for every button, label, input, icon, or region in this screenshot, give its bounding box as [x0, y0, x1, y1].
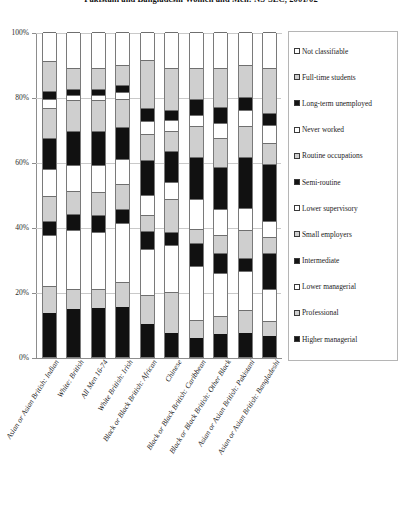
legend-item[interactable]: Professional	[294, 300, 393, 326]
bar-segment	[92, 131, 105, 165]
bar-segment	[141, 231, 154, 249]
bar-segment	[67, 309, 80, 357]
legend-item[interactable]: Small employers	[294, 221, 393, 247]
bar-segment	[43, 313, 56, 357]
legend-item[interactable]: Lower managerial	[294, 274, 393, 300]
legend-item[interactable]: Full-time students	[294, 64, 393, 90]
bar-segment	[43, 138, 56, 169]
bar-segment	[67, 68, 80, 89]
bar-segment	[263, 113, 276, 124]
plot-area	[36, 33, 281, 358]
bar-segment	[239, 157, 252, 207]
legend-item[interactable]: Not classifiable	[294, 38, 393, 64]
legend-label: Higher managerial	[302, 335, 357, 344]
bar-segment	[239, 333, 252, 357]
bar-segment	[214, 167, 227, 209]
bar-segment	[116, 209, 129, 224]
bar-segment	[67, 165, 80, 191]
bar-segment	[165, 333, 178, 357]
stacked-bar[interactable]	[115, 33, 130, 358]
bar-segment	[116, 32, 129, 65]
bar-segment	[263, 253, 276, 289]
bar-segment	[214, 316, 227, 334]
bar-segment	[141, 32, 154, 60]
bar-segment	[43, 221, 56, 236]
legend-swatch-icon	[294, 205, 300, 211]
stacked-bar[interactable]	[42, 33, 57, 358]
bar-segment	[214, 107, 227, 123]
bar-segment	[214, 138, 227, 167]
bar-segment	[141, 160, 154, 196]
bar-segment	[92, 192, 105, 215]
y-tick-label-20: 20%	[0, 288, 29, 297]
bar-segment	[263, 321, 276, 336]
legend-swatch-icon	[294, 258, 300, 264]
bar-segment	[67, 100, 80, 131]
bar-segment	[263, 143, 276, 164]
legend-item[interactable]: Never worked	[294, 117, 393, 143]
stacked-bar[interactable]	[164, 33, 179, 358]
chart-legend: Not classifiableFull-time studentsLong-t…	[288, 31, 398, 361]
stacked-bar[interactable]	[91, 33, 106, 358]
bar-segment	[263, 221, 276, 237]
bar-segment	[141, 249, 154, 295]
stacked-bar[interactable]	[262, 33, 277, 358]
bar-segment	[165, 151, 178, 182]
bar-segment	[263, 336, 276, 357]
bar-segment	[214, 68, 227, 107]
bar-segment	[214, 334, 227, 357]
bar-segment	[141, 295, 154, 324]
x-axis-label: Asian or Asian British: Indian	[5, 358, 61, 441]
bar-segment	[190, 115, 203, 126]
legend-label: Semi-routine	[302, 178, 341, 187]
y-tick-label-80: 80%	[0, 93, 29, 102]
bar-segment	[165, 68, 178, 110]
bar-segment	[263, 237, 276, 253]
bar-segment	[239, 110, 252, 126]
y-tick-mark-80	[32, 98, 36, 99]
legend-item[interactable]: Routine occupations	[294, 143, 393, 169]
bar-segment	[43, 61, 56, 90]
legend-item[interactable]: Semi-routine	[294, 169, 393, 195]
bar-segment	[43, 286, 56, 314]
bar-segment	[67, 32, 80, 68]
bar-segment	[190, 229, 203, 244]
stacked-bar[interactable]	[189, 33, 204, 358]
bar-segment	[165, 182, 178, 200]
bar-segment	[141, 134, 154, 160]
legend-item[interactable]: Long-term unemployed	[294, 90, 393, 116]
bar-segment	[165, 245, 178, 292]
legend-item[interactable]: Higher managerial	[294, 326, 393, 352]
bar-segment	[141, 60, 154, 108]
bar-segment	[92, 232, 105, 289]
bar-segment	[92, 68, 105, 89]
legend-label: Not classifiable	[302, 47, 348, 56]
bar-segment	[165, 232, 178, 245]
page-footer	[0, 510, 402, 515]
stacked-bar[interactable]	[66, 33, 81, 358]
legend-item[interactable]: Lower supervisory	[294, 195, 393, 221]
bar-segment	[92, 215, 105, 232]
stacked-bar[interactable]	[213, 33, 228, 358]
bar-segment	[116, 159, 129, 184]
legend-label: Long-term unemployed	[302, 99, 372, 108]
bar-segment	[263, 125, 276, 143]
bar-segment	[67, 95, 80, 100]
stacked-bar[interactable]	[238, 33, 253, 358]
stacked-bar[interactable]	[140, 33, 155, 358]
bar-segment	[214, 209, 227, 235]
y-tick-label-60: 60%	[0, 158, 29, 167]
legend-item[interactable]: Intermediate	[294, 248, 393, 274]
bar-segment	[165, 199, 178, 232]
x-axis-label: Chinese	[163, 358, 184, 384]
bar-segment	[116, 307, 129, 357]
bar-segment	[239, 208, 252, 231]
bar-segment	[116, 65, 129, 86]
bar-segment	[190, 157, 203, 199]
bar-segment	[239, 97, 252, 110]
y-tick-label-100: 100%	[0, 28, 29, 37]
y-tick-mark-60	[32, 163, 36, 164]
bar-segment	[214, 273, 227, 317]
bar-segment	[214, 235, 227, 253]
y-axis-line	[36, 33, 37, 359]
